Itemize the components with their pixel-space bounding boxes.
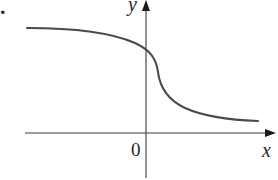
y-axis-label: y (128, 0, 137, 14)
function-curve (27, 28, 258, 121)
y-axis-arrow-icon (142, 0, 150, 11)
problem-number: . (0, 0, 6, 18)
x-axis-arrow-icon (265, 129, 276, 137)
origin-label: 0 (131, 140, 141, 159)
x-axis-label: x (262, 140, 271, 160)
